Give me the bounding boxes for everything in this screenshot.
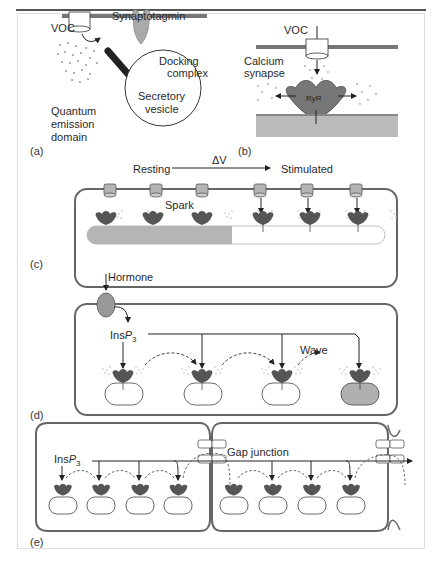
hormone-label: Hormone	[108, 271, 153, 283]
synaptotagmin-bar	[108, 51, 128, 74]
sr-store-filled	[87, 226, 232, 244]
resting-label: Resting	[133, 163, 170, 175]
qed-label-3: domain	[51, 131, 87, 143]
panel-label-e: (e)	[30, 536, 43, 548]
er-stores-e	[49, 484, 365, 514]
panel-b	[256, 26, 398, 137]
panel-label-d: (d)	[30, 409, 43, 421]
insp3-label-e: InsP3	[54, 453, 80, 470]
voc-row-c	[104, 184, 362, 197]
panel-label-c: (c)	[30, 258, 43, 270]
stimulated-label: Stimulated	[281, 163, 333, 175]
stimulated-arrows	[261, 198, 357, 213]
vesicle-label-1: Secretory	[138, 90, 185, 102]
calcium-label-2: synapse	[244, 67, 285, 79]
gap-junction-label: Gap junction	[227, 446, 289, 458]
diagram-canvas	[0, 0, 438, 561]
er-store-b	[256, 115, 398, 137]
wave-label: Wave	[300, 344, 328, 356]
panel-e	[36, 423, 412, 531]
synaptotagmin-label: Synaptotagmin	[112, 10, 185, 22]
er-stores-d	[102, 366, 381, 405]
calcium-flow-arrow	[82, 34, 100, 41]
wave-arrows	[145, 352, 320, 365]
qed-label-1: Quantum	[51, 105, 96, 117]
quantum-emission-dots	[57, 42, 98, 83]
insp3-arrows-e	[62, 461, 412, 480]
panel-label-a: (a)	[30, 145, 43, 157]
docking-label-2: complex	[167, 67, 208, 79]
vesicle-label-2: vesicle	[145, 103, 179, 115]
voc-label-b: VOC	[284, 24, 308, 36]
panel-c	[75, 168, 399, 287]
ryr-row-c	[96, 210, 399, 225]
insp3-label-d: InsP3	[110, 329, 136, 346]
calcium-label-1: Calcium	[244, 55, 284, 67]
spark-label: Spark	[165, 199, 194, 211]
qed-label-2: emission	[51, 118, 94, 130]
voc-label-a: VOC	[51, 22, 75, 34]
voc-channel-icon-b	[306, 39, 328, 59]
hormone-receptor-icon	[97, 293, 115, 317]
ryr-label: RyR	[306, 93, 322, 105]
delta-v-label: ΔV	[212, 154, 227, 166]
docking-label-1: Docking	[159, 55, 199, 67]
panel-label-b: (b)	[238, 145, 251, 157]
